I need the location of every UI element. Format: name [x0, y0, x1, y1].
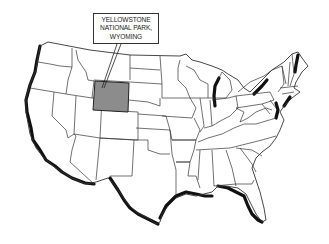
yellowstone-callout: YELLOWSTONE NATIONAL PARK, WYOMING: [93, 13, 159, 44]
callout-line-1: YELLOWSTONE: [94, 16, 158, 25]
state-borders: [30, 48, 298, 196]
callout-line-3: WYOMING: [94, 33, 158, 42]
us-map: YELLOWSTONE NATIONAL PARK, WYOMING: [0, 0, 329, 244]
map-svg: [0, 0, 329, 244]
us-outline: [26, 42, 308, 224]
coast-shadow: [26, 46, 298, 224]
wyoming-state[interactable]: [93, 81, 129, 112]
callout-line-2: NATIONAL PARK,: [94, 24, 158, 33]
